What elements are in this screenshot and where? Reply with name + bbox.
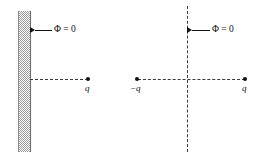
image-charge-figure: Φ = 0 q Φ = 0 −q q — [0, 0, 258, 159]
left-phi-arrow-line — [35, 30, 52, 31]
left-charge-label-q: q — [85, 84, 90, 93]
right-charge-dot-q — [243, 77, 247, 81]
right-phi-arrow-line — [192, 30, 210, 31]
right-charge-dot-minus-q — [135, 77, 139, 81]
left-potential-label: Φ = 0 — [54, 25, 76, 35]
right-phi-arrow-head-icon — [187, 27, 192, 33]
right-charge-label-minus-q: −q — [130, 84, 141, 93]
left-phi-arrow-head-icon — [30, 27, 35, 33]
left-axis-dashed-line — [30, 79, 88, 80]
right-charge-label-q: q — [242, 84, 247, 93]
right-potential-label: Φ = 0 — [212, 25, 234, 35]
left-charge-dot-q — [86, 77, 90, 81]
right-axis-dashed-line — [138, 79, 245, 80]
